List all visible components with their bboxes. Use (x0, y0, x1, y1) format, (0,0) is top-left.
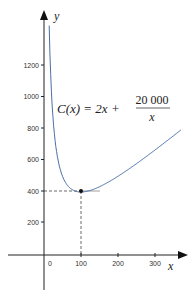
x-axis-label: x (167, 259, 174, 273)
y-ticks: 200 400 600 800 1000 1200 (23, 62, 44, 226)
y-axis-arrow-icon (40, 10, 48, 20)
formula-numerator: 20 000 (136, 93, 169, 107)
y-tick-label: 200 (27, 219, 39, 226)
formula-denominator: x (148, 110, 155, 124)
y-tick-label: 800 (27, 125, 39, 132)
y-tick-label: 400 (27, 188, 39, 195)
x-axis-arrow-icon (178, 251, 188, 259)
chart-area: 200 400 600 800 1000 1200 0 100 200 300 … (0, 0, 191, 290)
x-tick-label: 200 (112, 260, 124, 267)
formula-lhs: C(x) = 2x + (57, 101, 120, 116)
y-tick-label: 1200 (23, 62, 39, 69)
minimum-point (79, 189, 83, 193)
x-tick-label: 300 (149, 260, 161, 267)
y-tick-label: 1000 (23, 93, 39, 100)
formula-annotation: C(x) = 2x + 20 000 x (57, 93, 170, 124)
x-tick-label: 0 (48, 260, 52, 267)
y-axis-label: y (53, 9, 60, 23)
y-tick-label: 600 (27, 156, 39, 163)
x-tick-label: 100 (75, 260, 87, 267)
